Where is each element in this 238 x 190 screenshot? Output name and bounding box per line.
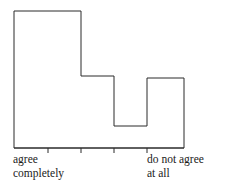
- axis-label-right: do not agree at all: [147, 152, 204, 180]
- histogram-outline-path: [14, 11, 184, 148]
- histogram-figure: agree completely do not agree at all: [0, 0, 238, 190]
- axis-label-left: agree completely: [13, 152, 64, 180]
- axis-label-right-line2: at all: [147, 166, 204, 180]
- axis-label-left-line1: agree: [13, 152, 64, 166]
- axis-label-left-line2: completely: [13, 166, 64, 180]
- axis-label-right-line1: do not agree: [147, 152, 204, 166]
